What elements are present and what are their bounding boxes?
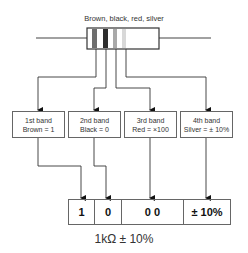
band-box-4: 4th band Silver = ± 10%: [180, 111, 233, 138]
band-box-label: 3rd band: [125, 116, 176, 125]
result-table: 1 0 0 0 ± 10%: [68, 199, 231, 225]
band-box-value: Red = ×100: [125, 125, 176, 134]
band-box-1: 1st band Brown = 1: [12, 111, 65, 138]
band-box-2: 2nd band Black = 0: [68, 111, 121, 138]
band-box-value: Silver = ± 10%: [181, 125, 232, 134]
result-cell-tolerance: ± 10%: [184, 200, 230, 224]
band-box-value: Brown = 1: [13, 125, 64, 134]
result-cell-digit2: 0: [95, 200, 122, 224]
band-box-3: 3rd band Red = ×100: [124, 111, 177, 138]
band-box-label: 1st band: [13, 116, 64, 125]
band-box-label: 4th band: [181, 116, 232, 125]
band-box-label: 2nd band: [69, 116, 120, 125]
result-cell-multiplier: 0 0: [122, 200, 184, 224]
resistance-caption: 1kΩ ± 10%: [0, 232, 248, 246]
band-box-value: Black = 0: [69, 125, 120, 134]
result-cell-digit1: 1: [69, 200, 95, 224]
resistor-title: Brown, black, red, silver: [0, 14, 248, 23]
